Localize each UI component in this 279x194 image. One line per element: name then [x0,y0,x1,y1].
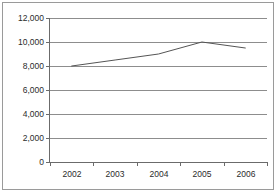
x-tick-label-2002: 2002 [63,170,82,179]
x-tick-1 [93,162,94,166]
plot-area: 12,000 10,000 8,000 6,000 4,000 2,000 0 [49,18,267,163]
y-tick-label-12000: 12,000 [18,14,44,23]
chart-border-frame: 12,000 10,000 8,000 6,000 4,000 2,000 0 [2,2,274,190]
x-tick-3 [180,162,181,166]
x-tick-label-2006: 2006 [237,170,256,179]
y-tick-label-4000: 4,000 [23,110,44,119]
y-tick-label-2000: 2,000 [23,134,44,143]
data-series-line [50,18,267,162]
y-tick-label-10000: 10,000 [18,38,44,47]
x-tick-5 [267,162,268,166]
x-tick-label-2004: 2004 [150,170,169,179]
x-tick-0 [50,162,51,166]
series-polyline [72,42,246,66]
x-tick-2 [137,162,138,166]
line-chart: 12,000 10,000 8,000 6,000 4,000 2,000 0 [3,3,273,189]
y-tick-label-0: 0 [39,158,44,167]
x-tick-label-2005: 2005 [193,170,212,179]
x-tick-4 [224,162,225,166]
x-tick-label-2003: 2003 [106,170,125,179]
y-tick-label-8000: 8,000 [23,62,44,71]
y-tick-label-6000: 6,000 [23,86,44,95]
